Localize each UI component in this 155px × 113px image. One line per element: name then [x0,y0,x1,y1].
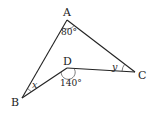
vertex-label-a: A [62,6,72,19]
angle-arc-b [28,89,32,92]
geometry-diagram: A B C D 80° 140° x y [0,0,155,113]
segment-dc [67,68,135,72]
vertex-label-b: B [11,96,19,109]
angle-label-a: 80° [61,27,77,37]
angle-arc-c [122,64,125,71]
vertex-label-c: C [138,69,146,82]
angle-label-d: 140° [60,78,82,88]
vertex-label-d: D [63,55,72,68]
angle-label-x: x [32,79,38,90]
angle-label-y: y [111,61,118,72]
